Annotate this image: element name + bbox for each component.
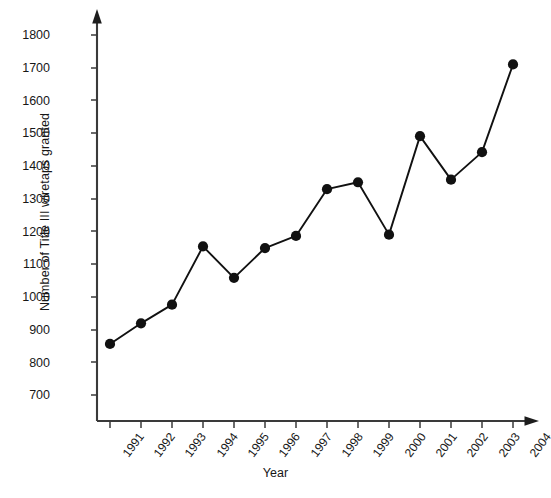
x-axis xyxy=(97,416,539,426)
data-point-markers xyxy=(105,59,518,349)
data-point xyxy=(415,131,425,141)
data-point xyxy=(508,59,518,69)
data-point xyxy=(446,175,456,185)
data-point xyxy=(260,243,270,253)
y-axis xyxy=(92,9,102,421)
data-point xyxy=(136,318,146,328)
data-point xyxy=(229,273,239,283)
data-point xyxy=(167,300,177,310)
data-point xyxy=(198,241,208,251)
data-point xyxy=(105,339,115,349)
data-point xyxy=(322,184,332,194)
plot-area xyxy=(0,0,551,498)
data-point xyxy=(384,230,394,240)
data-point xyxy=(477,147,487,157)
data-point xyxy=(291,231,301,241)
line-chart: Number of Title III wiretaps granted Yea… xyxy=(0,0,551,498)
data-point xyxy=(353,177,363,187)
